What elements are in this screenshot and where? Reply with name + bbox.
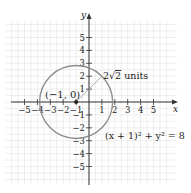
circle-graph: −5−4−3−2−112345−5−4−3−2−112345 (−1, 0) 2…	[0, 0, 191, 193]
center-point	[74, 100, 78, 104]
x-axis-label: x	[173, 104, 178, 114]
axes	[11, 13, 178, 185]
radius-unit: units	[121, 70, 148, 81]
y-tick-label: 4	[80, 45, 85, 55]
x-tick-label: −3	[44, 105, 57, 115]
x-tick-label: −2	[57, 105, 70, 115]
x-tick-label: 4	[138, 105, 143, 115]
y-tick-label: 2	[80, 71, 85, 81]
x-tick-label: 1	[99, 105, 104, 115]
y-axis-label: y	[80, 10, 87, 20]
y-tick-label: −2	[72, 123, 85, 133]
y-tick-label: 5	[80, 33, 85, 43]
y-tick-label: −5	[72, 162, 85, 172]
equation-label: (x + 1)² + y² = 8	[105, 130, 185, 141]
y-tick-label: −4	[72, 149, 85, 159]
y-tick-label: −1	[72, 110, 85, 120]
y-axis-arrow-icon	[87, 13, 92, 19]
x-tick-label: 3	[125, 105, 130, 115]
x-tick-label: −5	[18, 105, 31, 115]
x-tick-label: 5	[151, 105, 156, 115]
radius-label: 2√2 units	[103, 70, 148, 81]
center-label: (−1, 0)	[45, 89, 80, 100]
y-tick-label: 1	[80, 84, 85, 94]
